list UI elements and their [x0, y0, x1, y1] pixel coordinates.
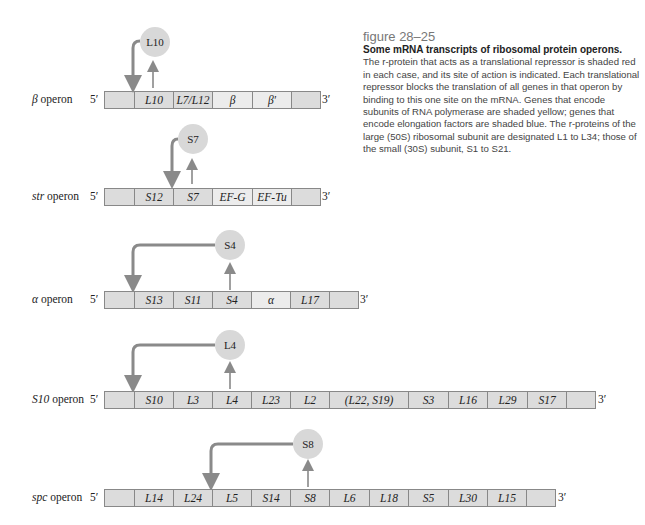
three-prime-label: 3′ [598, 393, 606, 405]
gene-cell: L15 [487, 490, 526, 506]
gene-cell: L4 [212, 392, 251, 408]
gene-cell: L30 [448, 490, 487, 506]
gene-cell [291, 189, 320, 205]
gene-cell [329, 292, 358, 308]
gene-cell: S8 [290, 490, 329, 506]
repressor-protein: S4 [215, 230, 245, 260]
operon-name: spc operon [32, 491, 82, 503]
operon-s10: S10 operon 5′ S10 L3 L4 L23 L2 (L22, S19… [0, 391, 645, 409]
gene-cell: L2 [290, 392, 329, 408]
five-prime-label: 5′ [90, 491, 98, 503]
gene-cell: L17 [290, 292, 329, 308]
gene-cell [105, 490, 134, 506]
operon-name: α operon [32, 293, 73, 305]
gene-cell: S13 [134, 292, 173, 308]
gene-cell: L18 [369, 490, 408, 506]
gene-cell [105, 189, 134, 205]
five-prime-label: 5′ [90, 293, 98, 305]
gene-cell: L29 [487, 392, 527, 408]
gene-cell: S7 [173, 189, 212, 205]
gene-cell: S5 [408, 490, 448, 506]
gene-cell: S11 [173, 292, 212, 308]
repressor-protein: S8 [293, 429, 323, 459]
operon-name: S10 operon [32, 393, 84, 405]
gene-cell: S3 [408, 392, 448, 408]
gene-cell [105, 292, 134, 308]
gene-cell: S10 [134, 392, 173, 408]
mrna-strip: S12 S7 EF-G EF-Tu [104, 188, 321, 206]
three-prime-label: 3′ [558, 491, 566, 503]
gene-cell: S4 [212, 292, 251, 308]
gene-cell: EF-G [212, 189, 252, 205]
operon-alpha: α operon 5′ S13 S11 S4 α L17 3′ [0, 291, 645, 309]
five-prime-label: 5′ [90, 393, 98, 405]
mrna-strip: S13 S11 S4 α L17 [104, 291, 359, 309]
gene-cell: L5 [212, 490, 251, 506]
gene-cell: L3 [173, 392, 212, 408]
gene-cell: (L22, S19) [329, 392, 408, 408]
mrna-strip: L14 L24 L5 S14 S8 L6 L18 S5 L30 L15 [104, 489, 556, 507]
gene-cell: S17 [527, 392, 566, 408]
gene-cell: S12 [134, 189, 173, 205]
gene-cell: L24 [173, 490, 212, 506]
operon-str: str operon 5′ S12 S7 EF-G EF-Tu 3′ [0, 188, 645, 206]
gene-cell: α [251, 292, 290, 308]
three-prime-label: 3′ [322, 190, 330, 202]
gene-cell: L6 [329, 490, 369, 506]
mrna-strip: S10 L3 L4 L23 L2 (L22, S19) S3 L16 L29 S… [104, 391, 596, 409]
repressor-protein: S7 [178, 124, 208, 154]
gene-cell: EF-Tu [252, 189, 291, 205]
operon-name: str operon [32, 190, 79, 202]
gene-cell [105, 392, 134, 408]
three-prime-label: 3′ [360, 293, 368, 305]
gene-cell: S14 [251, 490, 290, 506]
repressor-protein: L4 [215, 330, 245, 360]
gene-cell [526, 490, 555, 506]
five-prime-label: 5′ [90, 190, 98, 202]
gene-cell [566, 392, 595, 408]
gene-cell: L16 [448, 392, 487, 408]
gene-cell: L14 [134, 490, 173, 506]
gene-cell: L23 [251, 392, 290, 408]
operon-spc: spc operon 5′ L14 L24 L5 S14 S8 L6 L18 S… [0, 489, 645, 507]
